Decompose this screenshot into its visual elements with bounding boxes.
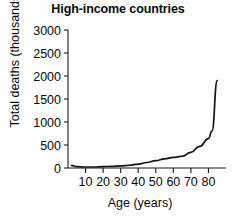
- x-tick-label-group: 1020304050607080: [79, 175, 216, 189]
- x-tick-label: 80: [201, 175, 215, 189]
- y-tick-label: 2000: [33, 70, 61, 84]
- y-tick-label: 1500: [33, 93, 61, 107]
- data-series-line: [72, 81, 218, 167]
- y-tick-label: 2500: [33, 47, 61, 61]
- chart-figure: High-income countries Total deaths (thou…: [0, 0, 236, 220]
- x-tick-label: 10: [79, 175, 93, 189]
- x-tick-label: 50: [149, 175, 163, 189]
- y-tick-label-group: 050010001500200025003000: [33, 24, 61, 176]
- x-tick-label: 20: [96, 175, 110, 189]
- x-tick-label: 70: [184, 175, 198, 189]
- x-tick-label: 30: [114, 175, 128, 189]
- y-tick-label: 500: [40, 139, 61, 153]
- plot-area: 050010001500200025003000 102030405060708…: [0, 0, 236, 220]
- x-tick-label: 40: [131, 175, 145, 189]
- y-tick-label: 1000: [33, 116, 61, 130]
- y-tick-label: 3000: [33, 24, 61, 38]
- axis-group: [64, 30, 226, 173]
- x-tick-label: 60: [166, 175, 180, 189]
- y-tick-label: 0: [54, 162, 61, 176]
